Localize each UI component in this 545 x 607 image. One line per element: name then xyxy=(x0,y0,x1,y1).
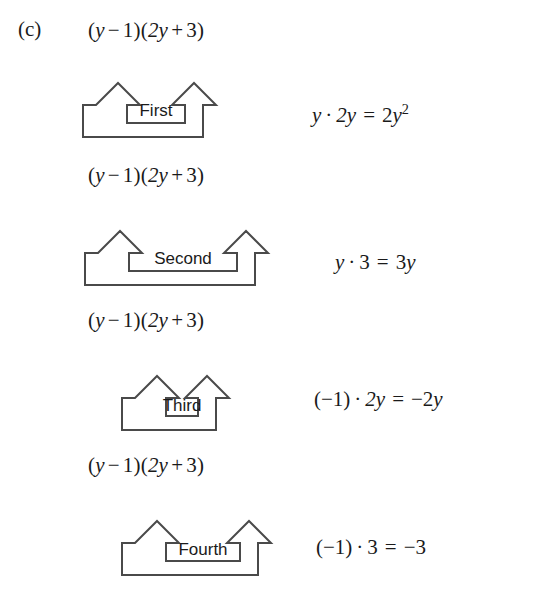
expr-minus-sign: − xyxy=(105,308,123,332)
expression-fourth: (y−1)(2y+3) xyxy=(88,453,204,478)
result-equals-sign: = xyxy=(378,535,404,559)
result-left-factor: (−1) xyxy=(316,535,352,559)
expr-term-1: 1 xyxy=(123,308,134,332)
result-equals-sign: = xyxy=(385,387,411,411)
expr-plus-sign: + xyxy=(168,163,186,187)
result-product-coefficient: 2 xyxy=(382,103,393,127)
result-product-coefficient: 3 xyxy=(396,250,407,274)
expr-minus-sign: − xyxy=(105,163,123,187)
result-right-factor: 2y xyxy=(336,103,356,127)
expr-open-paren-2: ( xyxy=(141,18,148,42)
expr-term-y: y xyxy=(95,308,105,332)
expr-open-paren-2: ( xyxy=(141,453,148,477)
step-label-fourth: Fourth xyxy=(121,540,285,560)
double-arrow-fourth xyxy=(121,486,285,576)
result-dot-operator: · xyxy=(350,387,365,411)
expr-term-y: y xyxy=(95,453,105,477)
expr-close-paren-2: ) xyxy=(197,163,204,187)
expr-plus-sign: + xyxy=(168,308,186,332)
expr-term-3: 3 xyxy=(186,163,197,187)
part-label: (c) xyxy=(18,17,41,42)
result-product-exponent: 2 xyxy=(402,101,409,117)
expression-third: (y−1)(2y+3) xyxy=(88,308,204,333)
result-product-variable: y xyxy=(406,250,415,274)
expr-minus-sign: − xyxy=(105,453,123,477)
expression-second: (y−1)(2y+3) xyxy=(88,163,204,188)
expr-term-1: 1 xyxy=(123,18,134,42)
expr-close-paren: ) xyxy=(133,163,140,187)
result-right-factor: 3 xyxy=(367,535,378,559)
expr-close-paren-2: ) xyxy=(197,308,204,332)
result-equation-fourth: (−1)·3=−3 xyxy=(316,535,426,560)
expr-close-paren: ) xyxy=(133,308,140,332)
result-product-variable: y xyxy=(433,387,442,411)
expr-close-paren-2: ) xyxy=(197,18,204,42)
result-product-variable: y xyxy=(393,103,402,127)
result-dot-operator: · xyxy=(321,103,336,127)
expr-open-paren-2: ( xyxy=(141,308,148,332)
result-right-factor: 2y xyxy=(365,387,385,411)
expr-close-paren: ) xyxy=(133,453,140,477)
expr-term-2y: 2y xyxy=(148,453,168,477)
result-equals-sign: = xyxy=(356,103,382,127)
result-dot-operator: · xyxy=(344,250,359,274)
result-equals-sign: = xyxy=(370,250,396,274)
expr-term-2y: 2y xyxy=(148,308,168,332)
result-equation-third: (−1)·2y=−2y xyxy=(314,387,443,412)
expr-term-3: 3 xyxy=(186,453,197,477)
step-label-third: Third xyxy=(121,396,243,416)
expr-term-1: 1 xyxy=(123,453,134,477)
step-label-first: First xyxy=(82,101,230,121)
result-product-coefficient: −2 xyxy=(411,387,433,411)
expr-term-y: y xyxy=(95,18,105,42)
expr-term-1: 1 xyxy=(123,163,134,187)
result-left-factor: y xyxy=(312,103,321,127)
expression-first: (y−1)(2y+3) xyxy=(88,18,204,43)
expr-minus-sign: − xyxy=(105,18,123,42)
result-dot-operator: · xyxy=(352,535,367,559)
expr-close-paren-2: ) xyxy=(197,453,204,477)
double-arrow-first xyxy=(82,50,230,138)
result-equation-second: y·3=3y xyxy=(335,250,416,275)
double-arrow-second xyxy=(84,196,282,286)
result-right-factor: 3 xyxy=(359,250,370,274)
expr-term-3: 3 xyxy=(186,18,197,42)
step-label-second: Second xyxy=(84,249,282,269)
result-product-coefficient: −3 xyxy=(404,535,426,559)
result-left-factor: y xyxy=(335,250,344,274)
expr-plus-sign: + xyxy=(168,18,186,42)
expr-plus-sign: + xyxy=(168,453,186,477)
expr-close-paren: ) xyxy=(133,18,140,42)
expr-open-paren-2: ( xyxy=(141,163,148,187)
expr-term-2y: 2y xyxy=(148,163,168,187)
expr-term-3: 3 xyxy=(186,308,197,332)
expr-term-2y: 2y xyxy=(148,18,168,42)
double-arrow-third xyxy=(121,341,243,431)
result-left-factor: (−1) xyxy=(314,387,350,411)
result-equation-first: y·2y=2y2 xyxy=(312,103,409,128)
expr-term-y: y xyxy=(95,163,105,187)
